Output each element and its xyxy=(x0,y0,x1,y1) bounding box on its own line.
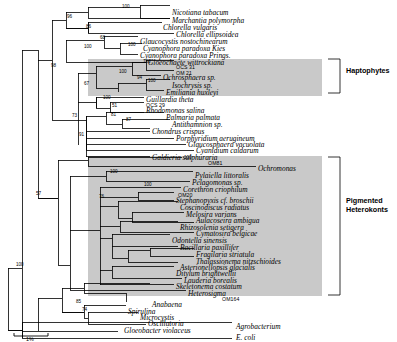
bootstrap-value-b-100-top: 100 xyxy=(122,4,130,9)
taxon-label-om164: OM164 xyxy=(222,295,240,303)
bootstrap-value-b-100-ocs31: 100 xyxy=(143,59,151,64)
bootstrap-value-b-100-bottom: 100 xyxy=(16,262,24,267)
taxon-label-anabaena: Anabaena xyxy=(152,301,182,309)
bootstrap-value-b-96-seedplants: 96 xyxy=(67,14,72,19)
bootstrap-value-b-100-diatoms: 100 xyxy=(144,182,152,187)
group-label-haptophytes: Haptophytes xyxy=(346,66,390,75)
taxon-label-heterosigma: Heterosigma xyxy=(188,290,226,298)
bootstrap-value-b-73-red: 73 xyxy=(72,113,77,118)
scale-bar-label: 1% xyxy=(26,336,34,342)
bootstrap-value-b-57-left: 57 xyxy=(36,191,41,196)
taxon-label-e-coli: E. coli xyxy=(236,334,255,342)
bootstrap-value-b-94-hapto: 94 xyxy=(137,75,142,80)
bootstrap-value-b-100-hapto: 100 xyxy=(119,69,127,74)
bootstrap-value-b-100-isochrysis: 100 xyxy=(148,78,156,83)
bootstrap-value-b-74-cyano: 74 xyxy=(82,307,87,312)
phylogenetic-tree-figure: Nicotiana tabacumMarchantia polymorphaCh… xyxy=(0,0,397,342)
bootstrap-value-b-81-palmaria: 81 xyxy=(111,112,116,117)
bootstrap-value-b-100-galdieria: 100 xyxy=(184,155,192,160)
group-label-line-2: Heterokonts xyxy=(346,205,388,214)
bootstrap-value-b-85-cyano: 85 xyxy=(76,299,81,304)
group-label-line-1: Pigmented xyxy=(346,196,388,205)
taxon-label-ochromonas: Ochromonas xyxy=(258,165,296,173)
bootstrap-value-b-100-cyanophora: 100 xyxy=(128,42,136,47)
bootstrap-value-b-100-guillardia: 100 xyxy=(103,95,111,100)
bootstrap-value-b-100-glauco-cl: 100 xyxy=(84,44,92,49)
bootstrap-value-b-86-chlorella: 86 xyxy=(86,24,91,29)
bootstrap-value-b-100-pylaiella: 100 xyxy=(110,169,118,174)
taxon-label-gloeobacter-violaceus: Gloeobacter violaceus xyxy=(124,327,191,335)
bootstrap-value-b-87-antitham: 87 xyxy=(126,117,131,122)
taxon-label-agrobacterium: Agrobacterium xyxy=(236,323,280,331)
bootstrap-value-b-67-crypto: 67 xyxy=(84,81,89,86)
bootstrap-value-b-51-rhodo: 51 xyxy=(112,103,117,108)
group-label-pigmented-heterokonts: PigmentedHeterokonts xyxy=(346,196,388,214)
bootstrap-value-b-76-heterokont: 76 xyxy=(99,194,104,199)
bootstrap-value-b-91-red: 91 xyxy=(79,132,84,137)
bootstrap-value-b-98-left: 98 xyxy=(51,63,56,68)
bootstrap-value-b-68-glauco: 68 xyxy=(100,35,105,40)
taxon-label-om81: OM81 xyxy=(208,159,223,167)
